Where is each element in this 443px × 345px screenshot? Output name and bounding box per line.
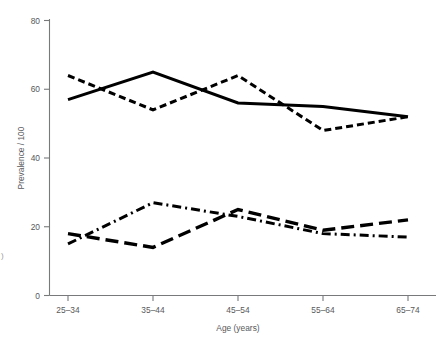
chart-container: 0 20 40 60 80 25–34 35–44 45–54 55–64 65… bbox=[0, 0, 443, 345]
y-tick-label-0: 0 bbox=[35, 291, 40, 301]
line-chart-svg: 0 20 40 60 80 25–34 35–44 45–54 55–64 65… bbox=[0, 0, 443, 345]
series-line-long-dash bbox=[68, 210, 408, 248]
y-axis-title: Prevalence / 100 bbox=[16, 126, 26, 189]
series-group bbox=[68, 72, 408, 247]
x-tick-label-4: 65–74 bbox=[396, 305, 420, 315]
left-edge-crop-artifact: ) bbox=[1, 251, 4, 260]
x-tick-group: 25–34 35–44 45–54 55–64 65–74 bbox=[56, 296, 420, 316]
y-tick-group: 0 20 40 60 80 bbox=[31, 16, 50, 301]
x-tick-label-2: 45–54 bbox=[226, 305, 250, 315]
series-line-solid bbox=[68, 72, 408, 117]
y-tick-label-40: 40 bbox=[31, 153, 41, 163]
x-tick-label-0: 25–34 bbox=[56, 305, 80, 315]
x-tick-label-1: 35–44 bbox=[141, 305, 165, 315]
y-tick-label-20: 20 bbox=[31, 222, 41, 232]
x-axis-title: Age (years) bbox=[216, 323, 259, 333]
y-tick-label-60: 60 bbox=[31, 84, 41, 94]
x-tick-label-3: 55–64 bbox=[311, 305, 335, 315]
y-tick-label-80: 80 bbox=[31, 16, 41, 26]
axis-group bbox=[50, 19, 437, 296]
